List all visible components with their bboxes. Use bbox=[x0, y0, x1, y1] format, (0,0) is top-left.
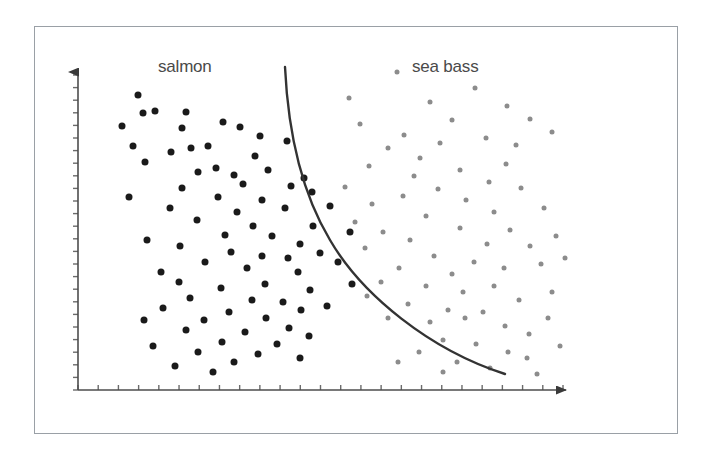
data-point bbox=[363, 246, 368, 251]
data-point bbox=[226, 309, 233, 316]
data-point bbox=[554, 234, 559, 239]
data-point bbox=[485, 242, 490, 247]
salmon-class-label: salmon bbox=[158, 58, 212, 75]
data-point bbox=[307, 287, 314, 294]
data-point bbox=[402, 133, 407, 138]
sea-bass-point-group bbox=[343, 70, 568, 377]
data-point bbox=[527, 332, 532, 337]
data-point bbox=[240, 181, 247, 188]
data-point bbox=[231, 172, 238, 179]
data-point bbox=[257, 133, 264, 140]
sea-bass-class-label: sea bass bbox=[412, 58, 478, 75]
data-point bbox=[297, 241, 304, 248]
data-point bbox=[195, 349, 202, 356]
data-point bbox=[353, 220, 358, 225]
data-point bbox=[250, 223, 257, 230]
data-point bbox=[269, 233, 276, 240]
data-point bbox=[424, 284, 429, 289]
data-point bbox=[455, 360, 460, 365]
data-point bbox=[458, 226, 463, 231]
data-point bbox=[506, 350, 511, 355]
data-point bbox=[298, 307, 305, 314]
data-point bbox=[441, 370, 446, 375]
data-point bbox=[179, 125, 186, 132]
data-point bbox=[183, 327, 190, 334]
data-point bbox=[242, 329, 249, 336]
data-point bbox=[463, 316, 468, 321]
data-point bbox=[505, 104, 510, 109]
data-point bbox=[177, 243, 184, 250]
data-point bbox=[168, 149, 175, 156]
data-point bbox=[274, 341, 281, 348]
data-point bbox=[503, 324, 508, 329]
data-point bbox=[222, 232, 229, 239]
data-point bbox=[141, 317, 148, 324]
data-point bbox=[327, 203, 334, 210]
data-point bbox=[441, 338, 446, 343]
salmon-point-group bbox=[119, 92, 356, 376]
figure-page: salmon sea bass bbox=[0, 0, 714, 458]
data-point bbox=[183, 109, 190, 116]
data-point bbox=[280, 299, 287, 306]
data-point bbox=[288, 183, 295, 190]
data-point bbox=[205, 143, 212, 150]
data-point bbox=[347, 229, 354, 236]
data-point bbox=[502, 266, 507, 271]
data-point bbox=[461, 290, 466, 295]
data-point bbox=[265, 167, 272, 174]
data-point bbox=[244, 265, 251, 272]
data-point bbox=[481, 310, 486, 315]
data-point bbox=[347, 96, 352, 101]
data-point bbox=[282, 205, 289, 212]
data-point bbox=[218, 285, 225, 292]
data-point bbox=[179, 185, 186, 192]
data-point bbox=[397, 266, 402, 271]
data-point bbox=[417, 350, 422, 355]
data-point bbox=[160, 305, 167, 312]
data-point bbox=[286, 325, 293, 332]
data-point bbox=[446, 308, 451, 313]
data-point bbox=[517, 298, 522, 303]
data-point bbox=[370, 202, 375, 207]
axes-group bbox=[73, 72, 566, 390]
data-point bbox=[508, 228, 513, 233]
data-point bbox=[324, 303, 331, 310]
data-point bbox=[234, 209, 241, 216]
data-point bbox=[285, 255, 292, 262]
data-point bbox=[474, 342, 479, 347]
data-point bbox=[215, 194, 222, 201]
data-point bbox=[450, 118, 455, 123]
data-point bbox=[144, 237, 151, 244]
data-point bbox=[252, 153, 259, 160]
data-point bbox=[450, 272, 455, 277]
data-point bbox=[317, 250, 324, 257]
data-point bbox=[386, 316, 391, 321]
data-point bbox=[528, 244, 533, 249]
data-point bbox=[310, 223, 317, 230]
data-point bbox=[150, 343, 157, 350]
data-point bbox=[167, 205, 174, 212]
data-point bbox=[492, 210, 497, 215]
data-point bbox=[202, 259, 209, 266]
data-point bbox=[539, 262, 544, 267]
data-point bbox=[525, 356, 530, 361]
data-point bbox=[550, 130, 555, 135]
data-point bbox=[126, 194, 133, 201]
data-point bbox=[395, 70, 400, 75]
data-point bbox=[135, 92, 142, 99]
data-point bbox=[535, 372, 540, 377]
data-point bbox=[158, 269, 165, 276]
data-point bbox=[201, 317, 208, 324]
data-point bbox=[130, 143, 137, 150]
data-point bbox=[487, 180, 492, 185]
decision-boundary-curve bbox=[285, 67, 505, 374]
data-point bbox=[492, 284, 497, 289]
data-point bbox=[152, 108, 159, 115]
data-point bbox=[210, 369, 217, 376]
data-point bbox=[365, 294, 370, 299]
data-point bbox=[458, 168, 463, 173]
data-point bbox=[438, 141, 443, 146]
data-point bbox=[558, 344, 563, 349]
data-point bbox=[436, 187, 441, 192]
data-point bbox=[194, 217, 201, 224]
